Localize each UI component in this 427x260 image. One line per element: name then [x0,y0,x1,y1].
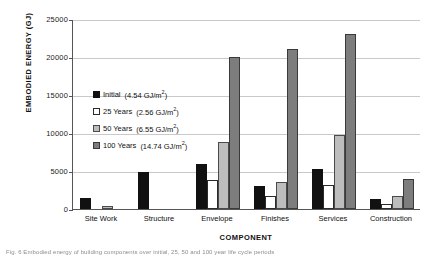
bar [196,164,207,209]
legend-value: (2.56 GJ/m2) [136,106,179,117]
legend-swatch-icon [93,142,100,149]
bar-group-bars [312,20,356,209]
x-tick-label: Construction [362,214,420,223]
bar [403,179,414,209]
legend-label: 25 Years [103,107,132,116]
figure-caption: Fig. 6 Embodied energy of building compo… [6,249,421,259]
bar [345,34,356,209]
x-tick-label: Finishes [246,214,304,223]
bar [381,204,392,209]
bar [312,169,323,209]
legend-item: Initial(4.54 GJ/m2) [93,86,228,103]
bar [287,49,298,209]
y-tick-label: 5000 [6,167,68,176]
bar [80,198,91,209]
gridline [73,58,420,59]
bar [207,180,218,209]
legend-value: (4.54 GJ/m2) [125,89,168,100]
y-tick-mark [69,134,73,135]
bar [392,196,403,209]
bar [229,57,240,209]
bar-group [312,20,356,209]
chart-legend: Initial(4.54 GJ/m2)25 Years(2.56 GJ/m2)5… [93,86,228,154]
x-tick-label: Envelope [188,214,246,223]
bar [254,186,265,209]
y-tick-label: 0 [6,205,68,214]
gridline [73,172,420,173]
legend-swatch-icon [93,125,100,132]
bar [323,185,334,209]
y-tick-label: 15000 [6,91,68,100]
legend-value: (6.55 GJ/m2) [136,123,179,134]
bar [138,172,149,209]
y-tick-mark [69,172,73,173]
bar [102,206,113,209]
y-tick-label: 10000 [6,129,68,138]
x-axis-title: COMPONENT [72,233,420,242]
x-tick-label: Services [304,214,362,223]
bar-group-bars [254,20,298,209]
y-tick-mark [69,20,73,21]
y-axis-tick-labels: 0500010000150002000025000 [0,0,68,260]
legend-item: 50 Years(6.55 GJ/m2) [93,120,228,137]
y-tick-label: 20000 [6,53,68,62]
legend-label: Initial [103,90,121,99]
legend-item: 100 Years(14.74 GJ/m2) [93,137,228,154]
legend-item: 25 Years(2.56 GJ/m2) [93,103,228,120]
bar-group [370,20,414,209]
legend-label: 100 Years [103,141,136,150]
bar [334,135,345,209]
bar-group [254,20,298,209]
legend-value: (14.74 GJ/m2) [140,140,187,151]
y-tick-mark [69,58,73,59]
y-tick-label: 25000 [6,15,68,24]
legend-swatch-icon [93,108,100,115]
bar [370,199,381,209]
bar-group-bars [370,20,414,209]
y-tick-mark [69,210,73,211]
bar [265,196,276,209]
legend-label: 50 Years [103,124,132,133]
y-tick-mark [69,96,73,97]
chart-figure: EMBODIED ENERGY (GJ) 0500010000150002000… [0,0,427,260]
gridline [73,20,420,21]
bar [276,182,287,209]
x-tick-label: Site Work [72,214,130,223]
x-tick-label: Structure [130,214,188,223]
legend-swatch-icon [93,91,100,98]
